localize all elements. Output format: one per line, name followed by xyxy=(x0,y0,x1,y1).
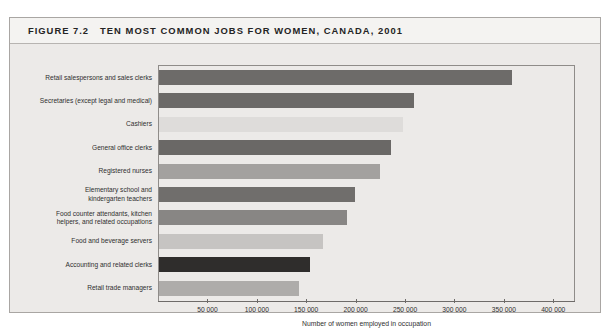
y-axis-label-line: Retail salespersons and sales clerks xyxy=(20,74,152,82)
y-axis-label-line: Accounting and related clerks xyxy=(20,261,152,269)
bar xyxy=(159,164,380,179)
x-axis-tick xyxy=(257,299,258,303)
figure-title-band: FIGURE 7.2 TEN MOST COMMON JOBS FOR WOME… xyxy=(10,18,600,44)
x-axis-ticks xyxy=(158,299,575,304)
x-axis-tick xyxy=(356,299,357,303)
figure-title: TEN MOST COMMON JOBS FOR WOMEN, CANADA, … xyxy=(100,25,403,36)
x-axis-tick-label: 150 000 xyxy=(294,306,318,313)
y-axis-label: Registered nurses xyxy=(20,167,152,175)
bar xyxy=(159,210,347,225)
y-axis-label-line: Secretaries (except legal and medical) xyxy=(20,97,152,105)
y-axis-label: Accounting and related clerks xyxy=(20,261,152,269)
y-axis-label-line: helpers, and related occupations xyxy=(20,218,152,226)
page-title: FIGURE 7.2 TEN MOST COMMON JOBS FOR WOME… xyxy=(28,25,403,36)
figure-container: FIGURE 7.2 TEN MOST COMMON JOBS FOR WOME… xyxy=(0,0,614,335)
y-axis-label: General office clerks xyxy=(20,144,152,152)
y-axis-label: Cashiers xyxy=(20,120,152,128)
x-axis-tick xyxy=(504,299,505,303)
bars-layer xyxy=(159,66,574,300)
figure-number: FIGURE 7.2 xyxy=(28,25,89,36)
x-axis-tick xyxy=(553,299,554,303)
y-axis-label-line: General office clerks xyxy=(20,144,152,152)
y-axis-label: Secretaries (except legal and medical) xyxy=(20,97,152,105)
figure-frame: FIGURE 7.2 TEN MOST COMMON JOBS FOR WOME… xyxy=(9,17,601,313)
y-axis-label-line: Elementary school and xyxy=(20,186,152,194)
bar xyxy=(159,70,512,85)
x-axis-tick-label: 350 000 xyxy=(492,306,516,313)
x-axis-tick-labels: 50 000100 000150 000200 000250 000300 00… xyxy=(10,306,602,318)
x-axis-tick-label: 400 000 xyxy=(541,306,565,313)
y-axis-label: Retail trade managers xyxy=(20,284,152,292)
chart-body: Retail salespersons and sales clerksSecr… xyxy=(10,44,600,312)
bar-row xyxy=(159,136,574,159)
bar-row xyxy=(159,230,574,253)
y-axis-labels: Retail salespersons and sales clerksSecr… xyxy=(20,66,152,300)
y-axis-label: Food and beverage servers xyxy=(20,237,152,245)
bar-row xyxy=(159,66,574,89)
bar xyxy=(159,187,355,202)
x-axis-tick-label: 100 000 xyxy=(245,306,269,313)
x-axis-tick-label: 200 000 xyxy=(344,306,368,313)
y-axis-label: Food counter attendants, kitchenhelpers,… xyxy=(20,210,152,227)
x-axis-tick xyxy=(306,299,307,303)
bar-row xyxy=(159,206,574,229)
y-axis-label-line: Retail trade managers xyxy=(20,284,152,292)
y-axis-label: Retail salespersons and sales clerks xyxy=(20,74,152,82)
x-axis-title: Number of women employed in occupation xyxy=(158,320,575,327)
bar xyxy=(159,140,391,155)
x-axis-tick-label: 50 000 xyxy=(197,306,217,313)
bar xyxy=(159,257,310,272)
y-axis-label-line: Food and beverage servers xyxy=(20,237,152,245)
y-axis-label: Elementary school andkindergarten teache… xyxy=(20,186,152,203)
bar-row xyxy=(159,113,574,136)
x-axis-tick xyxy=(207,299,208,303)
y-axis-label-line: kindergarten teachers xyxy=(20,195,152,203)
bar-row xyxy=(159,253,574,276)
bar xyxy=(159,93,414,108)
bar-row xyxy=(159,277,574,300)
x-axis-tick-label: 250 000 xyxy=(393,306,417,313)
x-axis-tick xyxy=(454,299,455,303)
bar xyxy=(159,234,323,249)
bar xyxy=(159,281,299,296)
x-axis-tick-label: 300 000 xyxy=(442,306,466,313)
y-axis-label-line: Registered nurses xyxy=(20,167,152,175)
bar-row xyxy=(159,160,574,183)
bar-row xyxy=(159,89,574,112)
y-axis-label-line: Cashiers xyxy=(20,120,152,128)
y-axis-label-line: Food counter attendants, kitchen xyxy=(20,210,152,218)
bar xyxy=(159,117,403,132)
x-axis-tick xyxy=(405,299,406,303)
bar-row xyxy=(159,183,574,206)
